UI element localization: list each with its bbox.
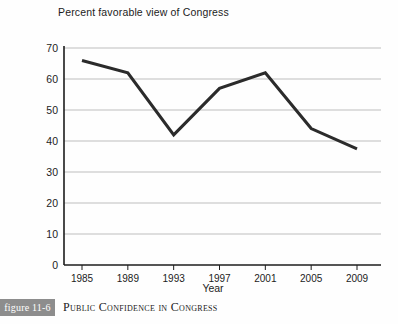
y-tick-label: 30 xyxy=(30,167,58,177)
y-tick-label: 40 xyxy=(30,136,58,146)
figure-caption-bar: figure 11-6 Public Confidence in Congres… xyxy=(0,299,398,316)
data-series-line xyxy=(82,60,357,148)
chart-plot-area: 010203040506070 198519891993199720012005… xyxy=(0,0,398,300)
figure-caption-title: Public Confidence in Congress xyxy=(55,299,398,316)
y-tick-label: 10 xyxy=(30,229,58,239)
y-tick-label: 50 xyxy=(30,105,58,115)
x-axis-title: Year xyxy=(14,282,398,294)
y-tick-label: 20 xyxy=(30,198,58,208)
figure-number-tag: figure 11-6 xyxy=(0,299,55,316)
y-tick-label: 0 xyxy=(30,260,58,270)
figure-container: Percent favorable view of Congress 01020… xyxy=(0,0,398,324)
gridlines xyxy=(64,48,381,265)
line-chart-svg xyxy=(0,0,398,300)
y-tick-label: 70 xyxy=(30,43,58,53)
y-tick-label: 60 xyxy=(30,74,58,84)
